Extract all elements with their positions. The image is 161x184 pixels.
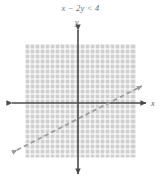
shaded-solution-region bbox=[25, 44, 136, 158]
x-axis-label: x bbox=[150, 99, 155, 108]
coordinate-plane: x y bbox=[0, 0, 161, 184]
y-axis-label: y bbox=[74, 18, 79, 27]
inequality-graph-figure: x − 2y < 4 bbox=[0, 0, 161, 184]
